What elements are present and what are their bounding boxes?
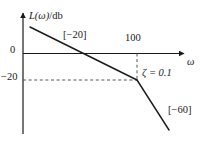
y-axis-title-function: L(ω) <box>29 10 49 21</box>
y-tick-label-minus-20: −20 <box>1 72 17 83</box>
y-axis-title: L(ω)/db <box>29 11 63 22</box>
bode-plot-figure: L(ω)/db 0 −20 ω 100 [−20] [−60] ζ = 0.1 <box>0 0 203 144</box>
y-axis-title-unit: /db <box>49 10 62 21</box>
y-tick-label-0: 0 <box>10 45 15 56</box>
slope-annotation-minus-20: [−20] <box>63 30 86 41</box>
x-tick-label-100: 100 <box>125 33 141 44</box>
asymptote-segment-minus60 <box>137 80 169 130</box>
damping-ratio-annotation: ζ = 0.1 <box>142 68 172 79</box>
x-axis-title: ω <box>187 57 194 68</box>
slope-annotation-minus-60: [−60] <box>168 105 191 116</box>
plot-canvas <box>0 0 203 144</box>
